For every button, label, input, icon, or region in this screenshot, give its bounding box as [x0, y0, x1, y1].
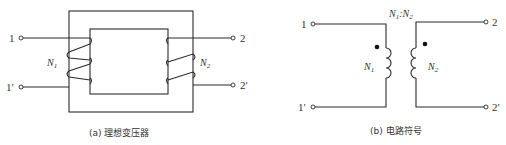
- core-outer: [69, 11, 193, 112]
- terminal-2-label: 2: [240, 32, 246, 44]
- n1-label: N1: [363, 61, 374, 74]
- n1-label: N1: [46, 57, 57, 70]
- primary-coil: [386, 48, 391, 78]
- caption-a: (a) 理想变压器: [89, 127, 149, 138]
- terminal-1-prime-label: 1′: [6, 81, 14, 93]
- terminal-1-prime: [19, 85, 23, 89]
- caption-b: (b) 电路符号: [370, 125, 422, 136]
- n2-label: N2: [427, 61, 439, 74]
- terminal-2-label: 2: [492, 16, 498, 28]
- ideal-transformer-figure: 1 1′ 2 2′ N1 N2 (a) 理想变压器: [6, 11, 248, 138]
- n2-label: N2: [199, 57, 211, 70]
- terminal-2-prime-label: 2′: [492, 101, 500, 113]
- polarity-dot-primary: [375, 45, 380, 50]
- polarity-dot-secondary: [423, 42, 428, 47]
- terminal-1-prime: [311, 105, 315, 109]
- terminal-1-prime-label: 1′: [298, 101, 306, 113]
- circuit-symbol-figure: N1:N2 1 1′ 2 2′ N1 N2 (b) 电路符号: [298, 8, 500, 136]
- secondary-winding: [167, 38, 196, 84]
- terminal-2-prime-label: 2′: [240, 79, 248, 91]
- turns-ratio-label: N1:N2: [388, 8, 413, 21]
- terminal-1-label: 1: [9, 32, 15, 44]
- primary-winding: [67, 38, 92, 84]
- terminal-2: [231, 36, 235, 40]
- terminal-2: [484, 20, 488, 24]
- secondary-coil: [411, 48, 416, 78]
- terminal-2-prime: [484, 105, 488, 109]
- transformer-diagram: 1 1′ 2 2′ N1 N2 (a) 理想变压器 N1:N2 1 1′ 2 2…: [0, 0, 506, 145]
- core-inner: [90, 29, 168, 94]
- terminal-1: [19, 36, 23, 40]
- terminal-2-prime: [231, 83, 235, 87]
- terminal-1: [311, 22, 315, 26]
- terminal-1-label: 1: [301, 18, 307, 30]
